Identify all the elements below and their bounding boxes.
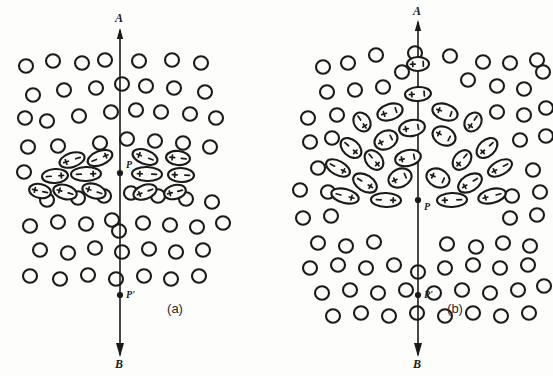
dipole-charge-far bbox=[178, 190, 183, 191]
dipole-charge-far bbox=[181, 158, 186, 159]
polarization-figure: ABPP'(a)ABPP'(b) bbox=[0, 0, 553, 376]
dipole-charge-near-vertical bbox=[169, 191, 170, 196]
dipole-charge-near bbox=[418, 125, 419, 130]
axis-label-b: B bbox=[114, 357, 123, 371]
dipole-molecule bbox=[407, 57, 429, 72]
dipole-outline bbox=[405, 86, 432, 102]
panel-caption-a: (a) bbox=[167, 301, 183, 316]
point-marker-p bbox=[415, 197, 421, 203]
dipole-charge-far bbox=[43, 192, 48, 193]
point-marker-p-prime bbox=[415, 292, 421, 298]
point-marker-p bbox=[117, 170, 123, 176]
dipole-outline bbox=[132, 166, 162, 181]
dipole-molecule bbox=[71, 166, 101, 181]
axis-label-a: A bbox=[114, 11, 123, 25]
dipole-molecule bbox=[168, 168, 194, 183]
axis-label-b: B bbox=[412, 357, 421, 371]
dipole-charge-near-vertical bbox=[485, 195, 486, 200]
dipole-molecule bbox=[371, 192, 401, 207]
point-label-p: P bbox=[126, 159, 133, 170]
dipole-charge-far-vertical bbox=[403, 129, 408, 130]
point-label-p-prime: P' bbox=[126, 289, 135, 300]
point-label-p: P bbox=[424, 201, 431, 212]
dipole-outline bbox=[71, 166, 101, 181]
dipole-outline bbox=[42, 168, 69, 184]
dipole-charge-far-vertical bbox=[400, 159, 405, 160]
dipole-charge-near-vertical bbox=[34, 188, 35, 193]
dipole-molecule bbox=[405, 86, 432, 102]
dipole-molecule bbox=[132, 166, 162, 181]
point-label-p-prime: P' bbox=[424, 289, 433, 300]
dipole-charge-near bbox=[414, 154, 415, 159]
dipole-charge-near bbox=[336, 194, 341, 195]
dipole-molecule bbox=[42, 168, 69, 184]
dipole-outline bbox=[371, 192, 401, 207]
dipole-outline bbox=[437, 192, 467, 207]
dipole-molecule bbox=[437, 192, 467, 207]
point-marker-p-prime bbox=[117, 292, 123, 298]
dipole-charge-far bbox=[496, 194, 501, 195]
dipole-charge-far-vertical bbox=[351, 195, 352, 200]
panel-caption-b: (b) bbox=[447, 301, 463, 316]
dipole-charge-near-vertical bbox=[172, 155, 173, 160]
axis-label-a: A bbox=[412, 4, 421, 18]
